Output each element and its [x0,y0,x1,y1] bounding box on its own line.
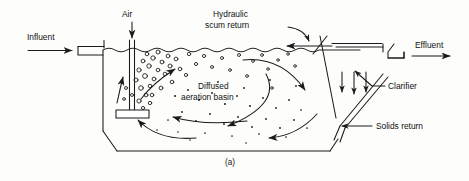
effluent-weir [383,44,404,58]
label-effluent: Effluent [415,40,444,50]
settling-arrows [342,72,366,94]
air-pipe [130,40,135,110]
scum-return-line [287,36,382,54]
label-solids-return: Solids return [376,121,423,131]
inlet-weir-box [78,41,104,56]
label-clarifier: Clarifier [388,81,417,91]
water-surface [103,48,360,52]
label-basin-line2: aeration basin [181,92,234,102]
label-air: Air [122,9,132,19]
clarifier-leader [355,71,385,86]
diagram-svg: Influent Air Hydraulic scum return Efflu… [0,0,469,181]
label-scum-return-line2: scum return [205,20,250,30]
label-scum-return-line1: Hydraulic [213,9,248,19]
figure-caption: (a) [225,158,235,167]
scum-return-leader [288,27,309,41]
figure-container: Influent Air Hydraulic scum return Efflu… [0,0,469,181]
diffuser-plate [116,110,149,118]
label-influent: Influent [27,32,55,42]
baffle-wall [320,36,336,118]
label-basin-line1: Diffused [198,81,229,91]
floc-particle-field [156,79,308,144]
